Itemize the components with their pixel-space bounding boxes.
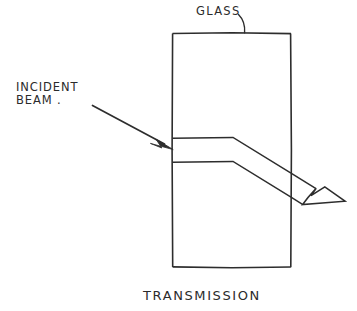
glass-slab-right-edge [291,34,292,268]
glass-slab [172,33,291,268]
diagram-canvas: GLASS INCIDENT BEAM . TRANSMISSION [0,0,357,311]
transmitted-beam-arrow [291,173,345,204]
refracted-beam-top-edge [173,137,291,173]
glass-label: GLASS [196,4,241,18]
transmitted-beam-arrowhead-icon [303,187,345,205]
refracted-beam-bottom-edge [173,161,291,197]
transmission-diagram: GLASS INCIDENT BEAM . TRANSMISSION [0,0,357,311]
incident-beam-label-line1: INCIDENT [16,80,78,94]
transmitted-beam-bottom-edge [291,197,303,204]
glass-slab-bottom-edge [173,267,291,268]
incident-beam-arrowhead-icon [150,139,173,150]
glass-slab-left-edge [172,34,173,268]
transmitted-beam-top-edge [291,173,316,188]
refracted-beam-band [173,137,291,197]
incident-beam-arrow [93,106,174,150]
glass-slab-top-edge [173,33,292,34]
transmission-caption: TRANSMISSION [142,288,261,303]
incident-beam-shaft [93,106,165,145]
incident-beam-label-line2: BEAM . [16,93,62,107]
